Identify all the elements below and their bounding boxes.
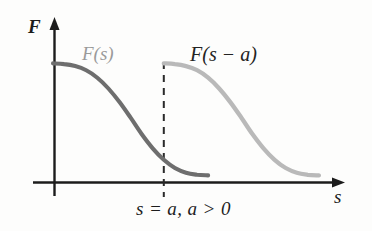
x-axis <box>33 178 345 188</box>
curve-label-original: F(s) <box>82 44 114 63</box>
x-axis-label: s <box>334 187 341 206</box>
laplace-shift-figure: F s F(s) F(s − a) s = a, a > 0 <box>0 0 372 231</box>
shift-condition-label: s = a, a > 0 <box>136 199 231 218</box>
curve-original-f-of-s <box>53 63 208 175</box>
curve-label-shifted: F(s − a) <box>190 44 257 64</box>
plot-canvas <box>0 0 372 231</box>
curve-shifted-f-of-s-minus-a <box>164 63 319 175</box>
y-axis-label: F <box>28 17 41 36</box>
y-axis-arrowhead <box>50 17 60 30</box>
y-axis <box>50 17 60 196</box>
